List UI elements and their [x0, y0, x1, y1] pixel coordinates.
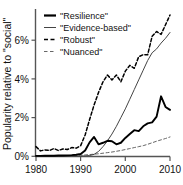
y-tick-label-4: 4%	[15, 74, 30, 85]
line-chart: 6% 4% 2% 0% 1980 1990 2000 2010 Populari…	[0, 0, 183, 185]
legend-label-evidence-based: "Evidence-based"	[60, 23, 131, 33]
x-tick-label-1990: 1990	[69, 164, 92, 175]
chart-container: 6% 4% 2% 0% 1980 1990 2000 2010 Populari…	[0, 0, 183, 185]
y-tick-label-0: 0%	[15, 151, 30, 162]
legend-label-nuanced: "Nuanced"	[60, 47, 102, 57]
y-axis-label: Popularity relative to "social"	[1, 17, 13, 150]
y-tick-label-6: 6%	[15, 35, 30, 46]
y-tick-label-2: 2%	[15, 112, 30, 123]
x-tick-label-1980: 1980	[25, 164, 48, 175]
legend-label-robust: "Robust"	[60, 35, 95, 45]
x-tick-label-2000: 2000	[114, 164, 137, 175]
legend-label-resilience: "Resilience"	[60, 11, 108, 21]
x-tick-label-2010: 2010	[159, 164, 182, 175]
